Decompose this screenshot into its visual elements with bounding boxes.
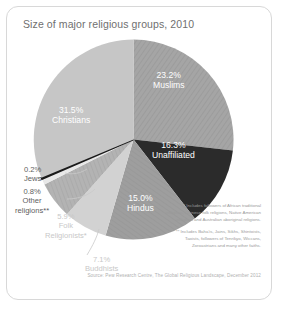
slice-name-muslims: Muslims — [153, 80, 185, 90]
slice-name-folk-religionists-2: Religionists* — [45, 231, 87, 240]
slice-name-christians: Christians — [52, 115, 90, 125]
footnote-double-asterisk: ** Includes Baha'is, Jains, Sikhs, Shint… — [165, 229, 261, 249]
slice-value-jews: 0.2% — [24, 165, 41, 174]
page-title: Size of major religious groups, 2010 — [23, 18, 194, 30]
slice-name-other-religions: Other — [15, 196, 49, 205]
slice-value-muslims: 23.2% — [153, 70, 185, 80]
slice-value-folk-religionists: 5.9% — [45, 212, 87, 221]
slice-label-other-religions: 0.8% Other religions** — [15, 187, 49, 215]
slice-label-christians: 31.5% Christians — [52, 105, 90, 126]
source-attribution: Source: Pew Research Centre, The Global … — [7, 273, 261, 278]
slice-label-muslims: 23.2% Muslims — [153, 70, 185, 91]
slice-name-unaffiliated: Unaffiliated — [152, 150, 195, 160]
slice-label-unaffiliated: 16.3% Unaffiliated — [152, 140, 195, 161]
slice-label-jews: 0.2% Jews — [24, 165, 41, 184]
slice-label-folk-religionists: 5.9% Folk Religionists* — [45, 212, 87, 240]
slice-name-folk-religionists: Folk — [45, 221, 87, 230]
slice-value-buddhists: 7.1% — [85, 255, 118, 264]
slice-value-hindus: 15.0% — [127, 193, 154, 203]
slice-label-buddhists: 7.1% Buddhists — [85, 255, 118, 274]
slice-name-hindus: Hindus — [127, 203, 154, 213]
slice-value-unaffiliated: 16.3% — [152, 140, 195, 150]
chart-card: Size of major religious groups, 2010 — [6, 6, 272, 300]
slice-value-other-religions: 0.8% — [15, 187, 49, 196]
pie-slice-muslims — [134, 40, 234, 151]
slice-value-christians: 31.5% — [52, 105, 90, 115]
slice-name-jews: Jews — [24, 174, 41, 183]
slice-label-hindus: 15.0% Hindus — [127, 193, 154, 214]
footnote-asterisk: * Includes followers of African traditio… — [165, 203, 261, 223]
